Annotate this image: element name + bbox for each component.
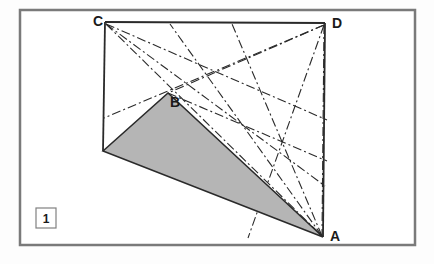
vertex-label-a: A [330,228,340,244]
figure-container: CDAB 1 [0,0,434,264]
geometry-figure: CDAB 1 [0,0,434,264]
index-label: 1 [43,212,50,226]
figure-frame [20,10,415,245]
vertex-label-b: B [170,94,180,110]
edge-CD [105,22,325,23]
vertex-label-c: C [93,13,103,29]
vertex-label-d: D [332,15,342,31]
